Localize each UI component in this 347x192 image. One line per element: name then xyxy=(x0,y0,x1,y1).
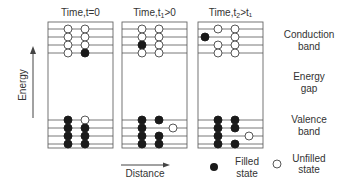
unfilled-state-hole xyxy=(64,33,72,41)
filled-state-electron xyxy=(81,140,89,148)
unfilled-state-hole xyxy=(155,25,163,33)
unfilled-state-hole xyxy=(155,41,163,49)
unfilled-state-hole xyxy=(81,33,89,41)
legend-unfilled-label-1: Unfilled xyxy=(292,153,325,164)
filled-state-electron xyxy=(214,140,222,148)
filled-state-electron xyxy=(214,132,222,140)
band-labels: Conduction band Energy gap Valence band xyxy=(284,29,335,137)
unfilled-state-hole xyxy=(81,116,89,124)
panel-frame xyxy=(48,22,113,148)
energy-axis: Energy xyxy=(17,46,36,118)
panel-2: Time,t1>0 xyxy=(122,7,187,148)
filled-state-electron xyxy=(64,116,72,124)
filled-state-electron xyxy=(155,132,163,140)
filled-state-electron xyxy=(138,132,146,140)
unfilled-state-hole xyxy=(231,49,239,57)
filled-state-electron xyxy=(81,49,89,57)
panel-3: Time,t2>t₁ xyxy=(198,7,263,148)
unfilled-state-hole xyxy=(214,49,222,57)
legend: Filled state Unfilled state xyxy=(210,153,326,179)
legend-unfilled-icon xyxy=(273,160,281,168)
unfilled-state-hole xyxy=(245,132,253,140)
unfilled-state-hole xyxy=(214,41,222,49)
distance-axis-arrowhead xyxy=(163,163,170,168)
filled-state-electron xyxy=(155,116,163,124)
panel-title: Time,t1>0 xyxy=(133,7,176,19)
filled-state-electron xyxy=(231,124,239,132)
filled-state-electron xyxy=(201,33,209,41)
unfilled-state-hole xyxy=(64,49,72,57)
panel-title: Time,t=0 xyxy=(61,7,100,18)
unfilled-state-hole xyxy=(64,25,72,33)
filled-state-electron xyxy=(231,116,239,124)
unfilled-state-hole xyxy=(155,49,163,57)
panel-1: Time,t=0 xyxy=(48,7,113,148)
filled-state-electron xyxy=(81,124,89,132)
energy-gap-label-2: gap xyxy=(301,83,318,94)
energy-axis-arrowhead xyxy=(30,46,36,54)
valence-band-label-1: Valence xyxy=(291,114,327,125)
unfilled-state-hole xyxy=(64,41,72,49)
legend-filled-label-1: Filled xyxy=(235,156,259,167)
distance-axis: Distance xyxy=(121,163,170,180)
unfilled-state-hole xyxy=(231,25,239,33)
valence-band-label-2: band xyxy=(298,126,320,137)
band-diagram: Energy Time,t=0Time,t1>0Time,t2>t₁ Condu… xyxy=(0,0,347,192)
energy-axis-label: Energy xyxy=(17,69,28,101)
filled-state-electron xyxy=(214,124,222,132)
filled-state-electron xyxy=(138,116,146,124)
unfilled-state-hole xyxy=(231,33,239,41)
filled-state-electron xyxy=(64,140,72,148)
conduction-band-label-2: band xyxy=(298,41,320,52)
filled-state-electron xyxy=(138,124,146,132)
unfilled-state-hole xyxy=(138,25,146,33)
unfilled-state-hole xyxy=(138,49,146,57)
legend-filled-icon xyxy=(210,163,218,171)
energy-gap-label-1: Energy xyxy=(293,71,325,82)
panels: Time,t=0Time,t1>0Time,t2>t₁ xyxy=(48,7,263,148)
filled-state-electron xyxy=(64,132,72,140)
unfilled-state-hole xyxy=(81,41,89,49)
unfilled-state-hole xyxy=(231,41,239,49)
filled-state-electron xyxy=(231,140,239,148)
filled-state-electron xyxy=(138,41,146,49)
unfilled-state-hole xyxy=(138,33,146,41)
conduction-band-label-1: Conduction xyxy=(284,29,335,40)
legend-unfilled-label-2: state xyxy=(298,164,320,175)
unfilled-state-hole xyxy=(155,33,163,41)
panel-frame xyxy=(198,22,263,148)
unfilled-state-hole xyxy=(81,25,89,33)
filled-state-electron xyxy=(138,140,146,148)
panel-title: Time,t2>t₁ xyxy=(209,7,253,19)
filled-state-electron xyxy=(214,116,222,124)
filled-state-electron xyxy=(155,140,163,148)
filled-state-electron xyxy=(64,124,72,132)
filled-state-electron xyxy=(81,132,89,140)
legend-filled-label-2: state xyxy=(236,168,258,179)
distance-axis-label: Distance xyxy=(126,168,165,179)
unfilled-state-hole xyxy=(169,124,177,132)
unfilled-state-hole xyxy=(214,25,222,33)
